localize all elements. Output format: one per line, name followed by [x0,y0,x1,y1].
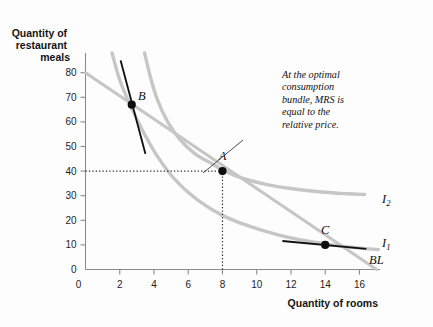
curve-labels-group: I2I1BL [369,192,391,267]
x-tick-label-6: 6 [185,279,191,290]
y-axis-tick-labels: 01020304050607080 [65,67,77,275]
y-axis-title-line-2: restaurant [16,39,68,51]
x-tick-label-16: 16 [354,279,366,290]
x-tick-label-12: 12 [285,279,297,290]
curve-label-sub-I1: 1 [386,242,390,252]
data-point-B [128,101,136,109]
y-tick-label-70: 70 [65,92,77,103]
x-tick-label-14: 14 [320,279,332,290]
y-tick-label-10: 10 [65,239,77,250]
curve-label-I1: I1 [381,236,390,252]
x-tick-label-10: 10 [251,279,263,290]
y-axis-title-line-1: Quantity of [12,27,68,39]
y-axis-title-line-3: meals [40,51,70,63]
data-point-A [218,167,226,175]
optimal-bundle-note-line-3: bundle, MRS is [282,94,344,105]
optimal-bundle-note-line-5: relative price. [282,119,339,130]
y-tick-label-80: 80 [65,67,77,78]
data-point-C [321,241,329,249]
y-tick-label-20: 20 [65,215,77,226]
y-tick-label-0: 0 [71,264,77,275]
y-tick-label-60: 60 [65,116,77,127]
data-point-label-C: C [321,223,330,237]
y-tick-label-40: 40 [65,166,77,177]
y-tick-label-30: 30 [65,190,77,201]
curve-label-sub-I2: 2 [386,198,391,208]
x-axis-tick-labels: 0246810121416 [76,279,366,290]
y-axis-ticks [81,73,86,245]
x-tick-label-0: 0 [76,279,82,290]
curve-label-I2: I2 [381,192,391,208]
optimal-bundle-note-line-2: consumption [282,81,334,92]
data-point-label-A: A [218,149,227,163]
economics-chart: Quantity of restaurant meals 01020304050… [0,0,433,327]
optimal-bundle-note-line-4: equal to the [282,106,331,117]
curves-group [86,53,379,270]
data-point-label-B: B [138,89,146,103]
x-tick-label-8: 8 [220,279,226,290]
optimal-bundle-note: At the optimalconsumptionbundle, MRS ise… [281,69,344,130]
x-tick-label-2: 2 [117,279,123,290]
x-axis-ticks [120,270,360,275]
y-axis-title: Quantity of restaurant meals [12,27,70,63]
y-tick-label-50: 50 [65,141,77,152]
x-tick-label-4: 4 [151,279,157,290]
curve-label-BL: BL [369,253,384,267]
x-axis-title: Quantity of rooms [288,297,379,309]
optimal-bundle-note-line-1: At the optimal [281,69,340,80]
guide-lines-group [86,171,223,269]
